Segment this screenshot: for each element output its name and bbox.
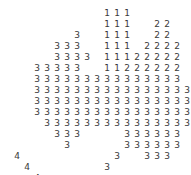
- grid-cell-label-3: 3: [162, 140, 172, 151]
- grid-cell-label-3: 3: [102, 118, 112, 129]
- grid-cell-label-3: 3: [142, 107, 152, 118]
- grid-cell-label-2: 2: [152, 19, 162, 30]
- grid-cell-label-3: 3: [82, 96, 92, 107]
- grid-cell-label-3: 3: [52, 129, 62, 140]
- grid-cell-label-3: 3: [182, 85, 191, 96]
- grid-cell-label-3: 3: [82, 107, 92, 118]
- grid-cell-label-2: 2: [162, 41, 172, 52]
- grid-cell-label-3: 3: [162, 118, 172, 129]
- grid-cell-label-2: 2: [162, 63, 172, 74]
- grid-cell-label-2: 2: [142, 52, 152, 63]
- grid-cell-label-2: 2: [142, 41, 152, 52]
- grid-cell-label-2: 2: [172, 52, 182, 63]
- grid-cell-label-3: 3: [72, 85, 82, 96]
- grid-cell-label-3: 3: [82, 118, 92, 129]
- grid-cell-label-3: 3: [72, 41, 82, 52]
- grid-cell-label-2: 2: [152, 52, 162, 63]
- grid-cell-label-3: 3: [52, 74, 62, 85]
- grid-cell-label-3: 3: [112, 118, 122, 129]
- grid-cell-label-3: 3: [112, 74, 122, 85]
- grid-cell-label-2: 2: [152, 41, 162, 52]
- grid-cell-label-3: 3: [62, 52, 72, 63]
- grid-cell-label-3: 3: [52, 85, 62, 96]
- grid-cell-label-3: 3: [62, 85, 72, 96]
- grid-cell-label-2: 2: [162, 30, 172, 41]
- grid-cell-label-2: 2: [122, 63, 132, 74]
- grid-cell-label-3: 3: [72, 30, 82, 41]
- grid-cell-label-3: 3: [112, 107, 122, 118]
- grid-cell-label-3: 3: [172, 118, 182, 129]
- grid-cell-label-3: 3: [92, 107, 102, 118]
- grid-cell-label-3: 3: [92, 118, 102, 129]
- grid-cell-label-3: 3: [142, 151, 152, 162]
- grid-cell-label-3: 3: [152, 96, 162, 107]
- grid-cell-label-3: 3: [102, 96, 112, 107]
- grid-cell-label-3: 3: [182, 107, 191, 118]
- grid-cell-label-3: 3: [122, 85, 132, 96]
- grid-cell-label-3: 3: [172, 74, 182, 85]
- grid-cell-label-2: 2: [162, 19, 172, 30]
- grid-cell-label-3: 3: [152, 85, 162, 96]
- grid-cell-label-3: 3: [162, 107, 172, 118]
- grid-cell-label-3: 3: [62, 74, 72, 85]
- grid-cell-label-3: 3: [52, 118, 62, 129]
- grid-cell-label-3: 3: [132, 74, 142, 85]
- grid-cell-label-4: 4: [22, 162, 32, 173]
- grid-cell-label-3: 3: [162, 96, 172, 107]
- grid-cell-label-3: 3: [112, 85, 122, 96]
- grid-cell-label-3: 3: [52, 52, 62, 63]
- grid-cell-label-3: 3: [142, 74, 152, 85]
- grid-cell-label-3: 3: [62, 129, 72, 140]
- grid-cell-label-2: 2: [152, 30, 162, 41]
- grid-cell-label-2: 2: [132, 63, 142, 74]
- grid-cell-label-3: 3: [172, 140, 182, 151]
- grid-cell-label-3: 3: [52, 63, 62, 74]
- grid-cell-label-3: 3: [72, 74, 82, 85]
- grid-cell-label-3: 3: [52, 41, 62, 52]
- grid-cell-label-3: 3: [72, 96, 82, 107]
- grid-cell-label-3: 3: [102, 85, 112, 96]
- grid-cell-label-1: 1: [102, 41, 112, 52]
- grid-cell-label-3: 3: [42, 107, 52, 118]
- grid-cell-label-3: 3: [152, 129, 162, 140]
- grid-cell-label-3: 3: [72, 129, 82, 140]
- grid-cell-label-4: 4: [32, 173, 42, 175]
- grid-cell-label-1: 1: [122, 52, 132, 63]
- grid-cell-label-3: 3: [132, 96, 142, 107]
- grid-cell-label-3: 3: [172, 129, 182, 140]
- grid-cell-label-3: 3: [142, 129, 152, 140]
- grid-cell-label-3: 3: [62, 140, 72, 151]
- grid-cell-label-3: 3: [32, 85, 42, 96]
- grid-cell-label-2: 2: [132, 52, 142, 63]
- grid-cell-label-3: 3: [32, 63, 42, 74]
- grid-cell-label-3: 3: [72, 107, 82, 118]
- grid-cell-label-3: 3: [132, 140, 142, 151]
- grid-cell-label-3: 3: [142, 85, 152, 96]
- grid-cell-label-3: 3: [142, 96, 152, 107]
- grid-cell-label-3: 3: [42, 96, 52, 107]
- grid-cell-label-3: 3: [72, 52, 82, 63]
- grid-cell-label-3: 3: [132, 85, 142, 96]
- grid-cell-label-3: 3: [152, 107, 162, 118]
- grid-cell-label-1: 1: [112, 63, 122, 74]
- grid-cell-label-3: 3: [92, 85, 102, 96]
- grid-cell-label-3: 3: [62, 96, 72, 107]
- grid-cell-label-3: 3: [32, 96, 42, 107]
- grid-cell-label-3: 3: [172, 96, 182, 107]
- grid-cell-label-3: 3: [42, 74, 52, 85]
- grid-cell-label-4: 4: [12, 151, 22, 162]
- grid-cell-label-3: 3: [132, 118, 142, 129]
- grid-cell-label-1: 1: [122, 30, 132, 41]
- grid-cell-label-3: 3: [132, 107, 142, 118]
- grid-cell-label-3: 3: [122, 118, 132, 129]
- grid-cell-label-3: 3: [62, 63, 72, 74]
- grid-cell-label-3: 3: [162, 151, 172, 162]
- grid-cell-label-1: 1: [112, 41, 122, 52]
- grid-cell-label-1: 1: [102, 30, 112, 41]
- grid-cell-label-3: 3: [122, 74, 132, 85]
- grid-cell-label-3: 3: [182, 96, 191, 107]
- grid-cell-label-3: 3: [132, 129, 142, 140]
- grid-cell-label-3: 3: [62, 41, 72, 52]
- grid-cell-label-1: 1: [112, 30, 122, 41]
- grid-cell-label-3: 3: [32, 107, 42, 118]
